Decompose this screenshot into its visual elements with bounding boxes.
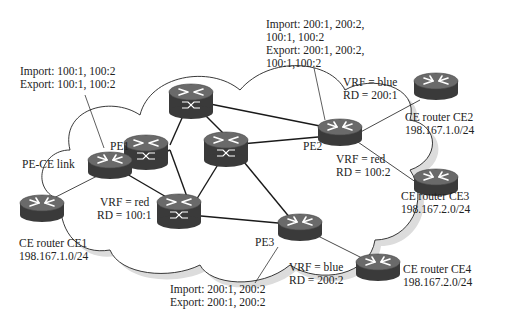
pe2-label: PE2: [303, 140, 322, 153]
pe2-router-icon: [318, 119, 362, 146]
core-router-4: [157, 194, 201, 229]
ce2-subnet: 198.167.1.0/24: [405, 124, 474, 137]
pe2-rd-blue: RD = 200:1: [343, 89, 397, 102]
pe2-vrf-blue: VRF = blue: [343, 76, 397, 89]
ce3-subnet: 198.167.2.0/24: [401, 203, 470, 216]
ce4-subnet: 198.167.2.0/24: [403, 276, 472, 289]
pe3-rd: RD = 200:2: [289, 274, 343, 287]
pe2-import-line1: Import: 200:1, 200:2,: [266, 18, 364, 31]
pe1-label: PE1: [110, 140, 129, 153]
pe-ce-link-label: PE-CE link: [22, 158, 75, 171]
ce1-router-icon: [20, 195, 64, 222]
pe2-export-line2: 100:1,100:2: [266, 57, 321, 70]
pe1-router-icon: [88, 152, 132, 179]
core-router-1: [169, 84, 213, 119]
pe1-vrf: VRF = red: [100, 196, 149, 209]
ce2-router-icon: [414, 73, 458, 100]
pe3-label: PE3: [255, 236, 274, 249]
ce2-name: CE router CE2: [405, 111, 473, 124]
pe2-vrf-red: VRF = red: [336, 153, 385, 166]
pe1-rd: RD = 100:1: [97, 209, 151, 222]
ce4-router-icon: [356, 254, 400, 281]
pe2-export-line1: Export: 200:1, 200:2,: [266, 44, 364, 57]
pe3-router-icon: [278, 214, 322, 241]
pe2-rd-red: RD = 100:2: [336, 166, 390, 179]
pe1-export: Export: 100:1, 100:2: [20, 78, 116, 91]
pe3-vrf: VRF = blue: [289, 261, 343, 274]
ce1-subnet: 198.167.1.0/24: [19, 250, 88, 263]
ce1-name: CE router CE1: [19, 237, 87, 250]
core-router-3: [204, 132, 248, 167]
pe3-import: Import: 200:1, 200:2: [170, 283, 266, 296]
ce4-name: CE router CE4: [403, 263, 471, 276]
ce3-name: CE router CE3: [401, 190, 469, 203]
pe1-import: Import: 100:1, 100:2: [20, 65, 116, 78]
pe2-import-line2: 100:1, 100:2: [266, 31, 324, 44]
pe3-export: Export: 200:1, 200:2: [170, 296, 266, 309]
